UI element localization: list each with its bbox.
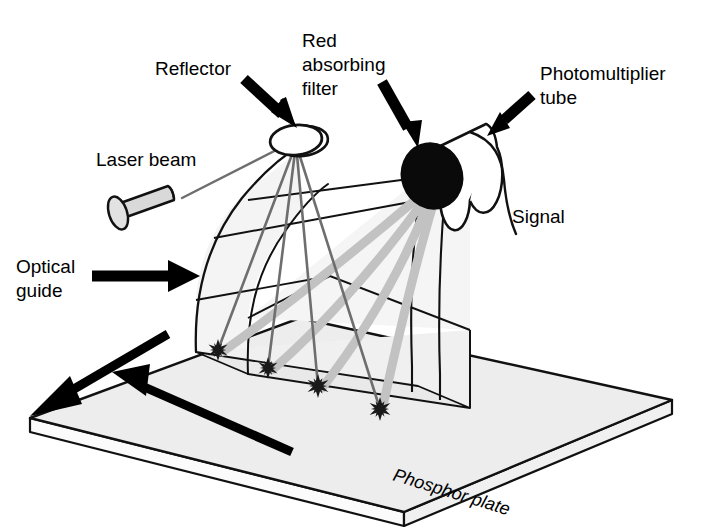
filter-callout-arrow [382,82,422,148]
optical-guide-label-line2: guide [16,280,63,301]
photomultiplier-tube-label-line2: tube [540,87,577,108]
laser-phosphor-plate-schematic: Reflector Red absorbing filter Photomult… [0,0,701,529]
reflector-callout-arrow [244,79,297,128]
optical-guide-label-line1: Optical [16,256,75,277]
photomultiplier-tube-label-line1: Photomultiplier [540,63,666,84]
reflector [269,122,330,158]
red-absorbing-filter-label-line3: filter [302,78,339,99]
reflector-label: Reflector [155,58,232,79]
laser-source [104,186,174,232]
red-absorbing-filter-label-line2: absorbing [302,54,385,75]
figure-root: Reflector Red absorbing filter Photomult… [0,0,701,529]
pmt-callout-arrow [487,95,532,136]
laser-beam-label: Laser beam [96,149,196,170]
red-absorbing-filter-label-line1: Red [302,30,337,51]
signal-label: Signal [512,206,565,227]
optical-guide-callout-arrow [92,260,200,292]
